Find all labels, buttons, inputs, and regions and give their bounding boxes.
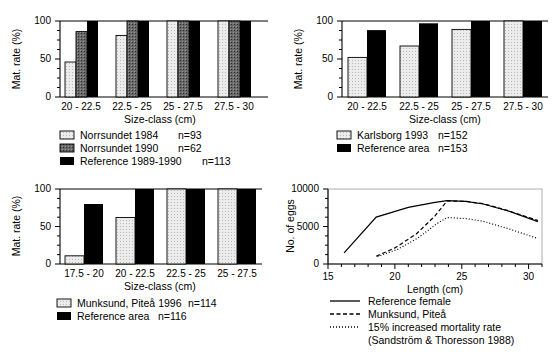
- bars-group-4: [218, 189, 256, 264]
- xtick-1: 22.5 - 25: [399, 101, 439, 112]
- xtick-0: 20 - 22.5: [61, 101, 101, 112]
- xtick-1: 22.5 - 25: [112, 101, 152, 112]
- ytick-0: 0: [45, 91, 51, 102]
- xtick-30: 30: [523, 271, 535, 282]
- legend-label-2: 15% increased mortality rate: [368, 321, 501, 333]
- legend: Reference female Munksund, Piteå 15% inc…: [330, 295, 514, 346]
- xtick-3: 25 - 27.5: [217, 268, 257, 279]
- ytick-50: 50: [40, 53, 52, 64]
- xtick-2: 25 - 27.5: [163, 101, 203, 112]
- legend-n-1: n=116: [158, 310, 187, 322]
- chart-line-eggs: 0 5000 10000 No. of eggs 15 20 25: [280, 175, 559, 360]
- bars-group-1: [65, 21, 98, 97]
- ytick-10000: 10000: [291, 183, 319, 194]
- legend-label-1: Munksund, Piteå: [368, 308, 446, 320]
- legend-swatch-0: [60, 131, 74, 139]
- y-axis-label: Mat. rate (%): [10, 196, 22, 257]
- legend-n-0: n=93: [178, 129, 202, 141]
- legend: Munksund, Piteå 1996 n=114 Reference are…: [57, 297, 217, 322]
- ytick-100: 100: [34, 183, 51, 194]
- x-axis-label: Size-class (cm): [124, 280, 196, 292]
- chart-bar-karlsborg: 0 50 100 Mat. rate (%): [280, 0, 559, 175]
- legend-n-1: n=153: [438, 142, 468, 154]
- xtick-2: 22.5 - 25: [166, 268, 206, 279]
- legend-swatch-1: [57, 312, 71, 320]
- ytick-0: 0: [327, 91, 333, 102]
- legend-n-1: n=62: [178, 142, 202, 154]
- legend-label-0: Karlsborg 1993: [357, 129, 428, 141]
- legend-n-0: n=114: [188, 297, 217, 309]
- legend-swatch-1: [60, 144, 74, 152]
- y-axis-label: Mat. rate (%): [292, 29, 304, 90]
- legend-label-1: Reference area: [357, 142, 430, 154]
- y-axis-label: No. of eggs: [284, 199, 296, 253]
- panel-maturation-munksund: 0 50 100 Mat. rate (%): [0, 175, 280, 360]
- y-axis-label: Mat. rate (%): [10, 29, 22, 90]
- legend-swatch-2: [60, 157, 74, 165]
- xtick-2: 25 - 27.5: [451, 101, 491, 112]
- bars-group-3: [452, 21, 490, 97]
- chart-bar-munksund: 0 50 100 Mat. rate (%): [0, 175, 280, 360]
- plot-area: 0 50 100 Mat. rate (%): [10, 15, 268, 125]
- panel-egg-production: 0 5000 10000 No. of eggs 15 20 25: [280, 175, 559, 360]
- x-axis-label: Size-class (cm): [124, 113, 196, 125]
- xtick-1: 20 - 22.5: [115, 268, 155, 279]
- x-axis-label: Length (cm): [407, 283, 463, 295]
- legend: Karlsborg 1993 n=152 Reference area n=15…: [337, 129, 468, 154]
- xtick-15: 15: [322, 271, 334, 282]
- xtick-20: 20: [389, 271, 401, 282]
- xtick-3: 27.5 - 30: [214, 101, 254, 112]
- ytick-100: 100: [34, 15, 51, 26]
- ytick-0: 0: [45, 258, 51, 269]
- bars-group-3: [167, 21, 200, 97]
- legend-swatch-0: [57, 299, 71, 307]
- plot-area: 0 5000 10000 No. of eggs 15 20 25: [284, 183, 542, 295]
- bars-group-4: [504, 21, 542, 97]
- panel-maturation-norrsundet: 0 50 100 Mat. rate (%): [0, 0, 280, 175]
- bars-group-2: [116, 21, 149, 97]
- legend-label-0: Reference female: [368, 295, 451, 307]
- legend-n-2: n=113: [202, 155, 231, 167]
- legend-label-1: Reference area: [77, 310, 150, 322]
- legend-swatch-0: [337, 131, 351, 139]
- xtick-0: 17.5 - 20: [64, 268, 104, 279]
- bars-group-4: [218, 21, 251, 97]
- xtick-25: 25: [456, 271, 468, 282]
- legend-label-1: Norrsundet 1990: [80, 142, 158, 154]
- ytick-5000: 5000: [297, 221, 320, 232]
- series-line-mortality-15: [378, 218, 539, 257]
- ytick-0: 0: [313, 258, 319, 269]
- bars-group-1: [348, 30, 386, 97]
- legend: Norrsundet 1984 n=93 Norrsundet 1990 n=6…: [60, 129, 231, 167]
- legend-swatch-1: [337, 144, 351, 152]
- chart-bar-norrsundet: 0 50 100 Mat. rate (%): [0, 0, 280, 175]
- ytick-50: 50: [322, 53, 334, 64]
- legend-note: (Sandström & Thoresson 1988): [368, 334, 514, 346]
- x-axis-label: Size-class (cm): [409, 113, 481, 125]
- plot-area: 0 50 100 Mat. rate (%): [292, 15, 548, 125]
- plot-area: 0 50 100 Mat. rate (%): [10, 183, 262, 292]
- bars-group-2: [400, 23, 438, 97]
- ytick-50: 50: [40, 221, 52, 232]
- legend-label-2: Reference 1989-1990: [80, 155, 182, 167]
- legend-n-0: n=152: [438, 129, 468, 141]
- xtick-0: 20 - 22.5: [347, 101, 387, 112]
- legend-label-0: Norrsundet 1984: [80, 129, 158, 141]
- bars-group-3: [167, 189, 205, 264]
- figure-root: 0 50 100 Mat. rate (%): [0, 0, 559, 360]
- legend-label-0: Munksund, Piteå 1996: [77, 297, 182, 309]
- ytick-100: 100: [316, 15, 333, 26]
- bars-group-1: [65, 204, 103, 264]
- bars-group-2: [116, 189, 154, 264]
- panel-maturation-karlsborg: 0 50 100 Mat. rate (%): [280, 0, 559, 175]
- xtick-3: 27.5 - 30: [503, 101, 543, 112]
